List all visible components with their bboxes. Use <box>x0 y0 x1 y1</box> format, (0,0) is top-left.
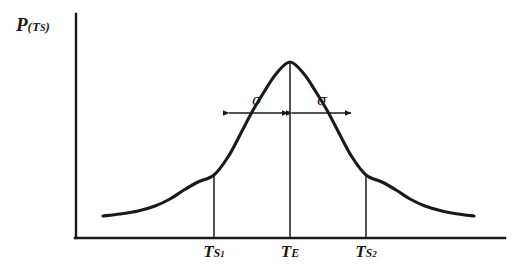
y-axis-label: P(TS) <box>16 15 50 34</box>
x-tick-label-t-s2-main: T <box>355 242 365 261</box>
x-tick-label-t-s2: TS2 <box>355 243 377 260</box>
x-tick-label-t-s1: TS1 <box>203 243 225 260</box>
x-tick-label-t-s1-main: T <box>203 242 213 261</box>
x-tick-label-t-s1-subsub: 1 <box>220 249 225 259</box>
plot-canvas <box>0 0 518 275</box>
y-axis-label-main: P <box>16 14 28 35</box>
x-tick-label-t-e-sub: E <box>291 246 299 260</box>
y-axis-label-subscript: (TS) <box>28 19 50 34</box>
gaussian-curve <box>103 62 474 216</box>
x-tick-label-t-e: TE <box>281 243 299 260</box>
y-axis-label-sub-main: T <box>32 19 40 34</box>
x-tick-label-t-s2-subsub: 2 <box>372 249 377 259</box>
sigma-left-label: σ <box>252 91 262 109</box>
sigma-right-label: σ <box>317 91 327 109</box>
gaussian-distribution-figure: P(TS) TS1 TE TS2 σ σ <box>0 0 518 275</box>
y-axis-label-paren-close: ) <box>45 19 49 34</box>
x-tick-label-t-e-main: T <box>281 242 291 261</box>
